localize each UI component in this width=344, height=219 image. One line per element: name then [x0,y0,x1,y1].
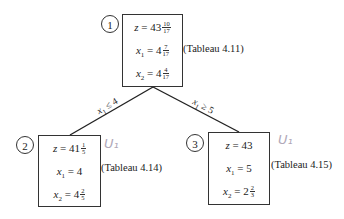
node-box-1: z = 431017 x1 = 4717 x2 = 4417 [122,14,183,87]
tableau-label-2: (Tableau 4.14) [101,162,162,173]
node-3-x1: x1 = 5 [209,162,269,174]
tableau-label-3: (Tableau 4.15) [271,159,332,170]
node-3-x2: x2 = 223 [209,185,269,199]
node-3-z: z = 43 [209,139,269,151]
node-1-x1: x1 = 4717 [123,44,182,58]
node-2-z: z = 4115 [39,142,100,156]
node-2-x2: x2 = 425 [39,188,100,202]
node-1-x2: x2 = 4417 [123,67,182,81]
node-1-z: z = 431017 [123,21,182,35]
edge-1-2 [70,87,153,135]
node-2-x1: x1 = 4 [39,165,100,177]
node-box-3: z = 43 x1 = 5 x2 = 223 [208,132,270,205]
node-number-1: 1 [101,15,119,33]
handwritten-annotation-3: U₁ [278,132,293,147]
node-box-2: z = 4115 x1 = 4 x2 = 425 [38,135,101,207]
node-number-2: 2 [16,136,34,154]
tableau-label-1: (Tableau 4.11) [183,43,244,54]
handwritten-annotation-2: U₁ [104,136,119,151]
node-number-3: 3 [186,134,204,152]
